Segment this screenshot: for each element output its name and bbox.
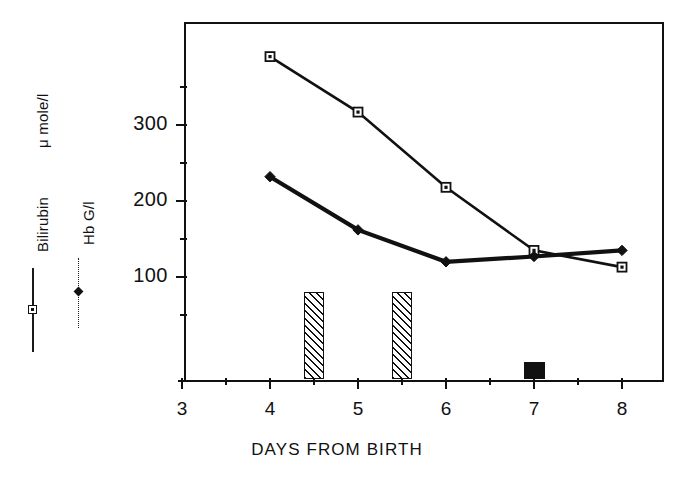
diamond-marker-icon	[441, 257, 451, 267]
square-marker-center	[620, 266, 623, 269]
square-marker-center	[444, 186, 447, 189]
square-marker-center	[356, 110, 359, 113]
square-marker-center	[268, 55, 271, 58]
bilirubin-hb-chart: Bilirubin μ mole/l Hb G/l 100200300 3456…	[0, 0, 674, 495]
x-axis-title: DAYS FROM BIRTH	[0, 440, 674, 460]
series-plot	[0, 0, 674, 495]
series-line-bilirubin	[270, 57, 622, 268]
diamond-marker-icon	[617, 245, 627, 255]
